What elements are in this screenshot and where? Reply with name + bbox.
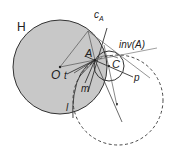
diagram: H cA A inv(A) C O t m p l	[0, 0, 171, 160]
label-ca: cA	[94, 10, 104, 22]
label-t: t	[64, 71, 67, 81]
label-ca-sub: A	[99, 15, 104, 22]
point-a	[94, 59, 96, 61]
label-c: C	[112, 59, 120, 70]
label-inv-a: inv(A)	[119, 40, 145, 50]
label-l: l	[66, 103, 68, 113]
label-p: p	[134, 73, 140, 83]
label-o: O	[51, 69, 60, 81]
label-a: A	[85, 48, 92, 59]
point-c	[108, 65, 110, 67]
label-h: H	[17, 21, 26, 33]
label-m: m	[81, 84, 89, 94]
point-lower	[116, 103, 118, 105]
